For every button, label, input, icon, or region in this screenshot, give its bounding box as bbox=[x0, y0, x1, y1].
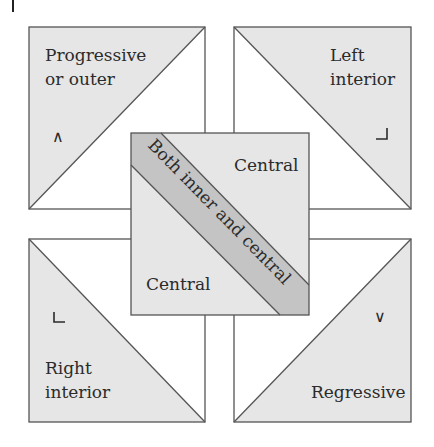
center-lower-label: Central bbox=[146, 274, 211, 294]
panel-top-left-label-line1: Progressive bbox=[45, 45, 146, 65]
diagram-canvas: Progressive or outer ∧ Left interior Rig… bbox=[0, 0, 434, 447]
panel-bottom-left-label-line1: Right bbox=[45, 358, 92, 378]
wedge-down-icon: ∨ bbox=[374, 307, 386, 326]
panel-top-right-label-line2: interior bbox=[330, 69, 396, 89]
panel-top-left-label-line2: or outer bbox=[45, 69, 116, 89]
panel-bottom-left-label-line2: interior bbox=[45, 382, 111, 402]
panel-bottom-right-label-line1: Regressive bbox=[311, 382, 405, 402]
panel-center: Central Central Both inner and central bbox=[131, 133, 309, 315]
wedge-up-icon: ∧ bbox=[52, 127, 64, 146]
panel-top-right-label-line1: Left bbox=[330, 45, 365, 65]
center-upper-label: Central bbox=[234, 155, 299, 175]
edge-mark bbox=[12, 0, 14, 12]
